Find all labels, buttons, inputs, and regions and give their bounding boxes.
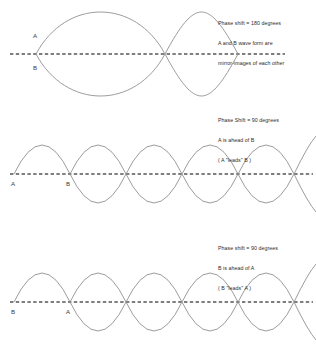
caption-phase-90-a-leads: Phase Shift = 90 degrees A is ahead of B… — [218, 104, 279, 177]
wave-label-first-90-b: B — [11, 308, 15, 315]
wave-label-b-180: B — [33, 64, 37, 71]
caption-90-a-line-1: Phase Shift = 90 degrees — [218, 117, 279, 124]
caption-90-b-line-1: Phase shift = 90 degrees — [218, 245, 278, 252]
panel-phase-180: A B Phase shift = 180 degrees A and B wa… — [0, 0, 316, 118]
phase-shift-diagram-page: { "figure": { "title": "Phase shift wave… — [0, 0, 316, 352]
wave-label-second-90-b: A — [66, 308, 70, 315]
caption-90-b-line-3: ( B "leads" A ) — [218, 285, 278, 292]
panel-phase-90-b-leads: B A Phase shift = 90 degrees B is ahead … — [0, 246, 316, 352]
caption-180-line-2: A and B wave form are — [218, 40, 284, 47]
caption-180-line-3: mirror-images of each other — [218, 60, 284, 67]
caption-90-a-line-3: ( A "leads" B ) — [218, 157, 279, 164]
wave-label-second-90-a: B — [66, 180, 70, 187]
wave-label-a-180: A — [33, 32, 37, 39]
caption-phase-90-b-leads: Phase shift = 90 degrees B is ahead of A… — [218, 232, 278, 305]
panel-phase-90-a-leads: A B Phase Shift = 90 degrees A is ahead … — [0, 118, 316, 246]
caption-180-line-1: Phase shift = 180 degrees — [218, 20, 284, 27]
caption-90-b-line-2: B is ahead of A — [218, 265, 278, 272]
caption-90-a-line-2: A is ahead of B — [218, 137, 279, 144]
caption-phase-180: Phase shift = 180 degrees A and B wave f… — [218, 7, 284, 80]
wave-label-first-90-a: A — [11, 180, 15, 187]
